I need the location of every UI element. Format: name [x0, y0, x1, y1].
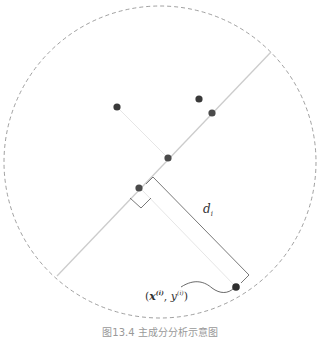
data-point — [113, 103, 120, 110]
projection-line-upper — [117, 107, 168, 158]
principal-axis-line — [57, 52, 271, 276]
data-point-highlighted — [232, 283, 240, 291]
distance-label: di — [203, 202, 213, 218]
separator: , — [164, 290, 171, 303]
data-point — [135, 184, 142, 191]
distance-symbol: d — [203, 202, 211, 216]
figure-caption: 图13.4 主成分分析示意图 — [0, 324, 320, 339]
y-superscript: (i) — [177, 289, 184, 296]
data-point — [208, 109, 215, 116]
x-superscript: (i) — [156, 289, 164, 296]
paren-close: ) — [184, 290, 188, 303]
projection-line-lower — [142, 190, 236, 287]
data-point — [164, 154, 171, 161]
distance-subscript: i — [211, 210, 213, 218]
label-leader-curve — [181, 282, 234, 293]
right-angle-marker — [130, 198, 151, 208]
boundary-circle — [4, 6, 316, 318]
distance-bracket — [146, 177, 249, 283]
point-coordinate-label: (x(i), y(i)) — [145, 289, 188, 303]
data-point — [195, 95, 202, 102]
